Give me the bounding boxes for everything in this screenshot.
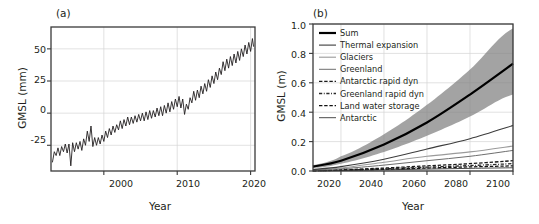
panel-b-plot: SumThermal expansionGlaciersGreenlandAnt… — [266, 0, 539, 224]
panel-a-ticks — [47, 49, 251, 175]
panel-a-data-line — [52, 39, 253, 166]
legend-label-2: Glaciers — [340, 52, 373, 62]
legend-label-6: Land water storage — [340, 101, 420, 111]
legend-label-1: Thermal expansion — [339, 40, 418, 50]
panel-a: (a) GMSL (mm) Year 50 25 0 -25 2000 2010… — [0, 0, 270, 224]
legend-label-4: Antarctic rapid dyn — [340, 76, 418, 86]
panel-b-legend: SumThermal expansionGlaciersGreenlandAnt… — [319, 28, 424, 123]
legend-label-3: Greenland — [340, 64, 382, 74]
legend-label-7: Antarctic — [340, 113, 377, 123]
panel-a-plot — [0, 0, 270, 224]
figure-gmsl: (a) GMSL (mm) Year 50 25 0 -25 2000 2010… — [0, 0, 539, 224]
legend-label-5: Greenland rapid dyn — [340, 89, 424, 99]
legend-label-0: Sum — [340, 28, 358, 38]
panel-b: (b) GMSL (m) Year 1.0 0.8 0.6 0.4 0.2 0.… — [266, 0, 539, 224]
